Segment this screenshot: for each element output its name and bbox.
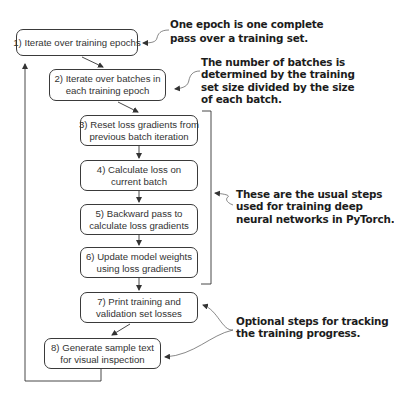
arrow-1-2 <box>82 57 103 67</box>
pointer-annotation-3 <box>215 193 233 205</box>
pointer-annotation-4a <box>203 305 233 330</box>
arrow-2-3 <box>118 102 138 112</box>
step-6-box: 6) Update model weights using loss gradi… <box>80 247 198 278</box>
annotation-optional-steps: Optional steps for tracking the training… <box>236 315 389 340</box>
step-5-box: 5) Backward pass to calculate loss gradi… <box>80 204 198 235</box>
step-2-box: 2) Iterate over batches in each training… <box>49 69 166 101</box>
annotation-usual-steps: These are the usual steps used for train… <box>236 188 394 225</box>
annotation-epoch: One epoch is one complete pass over a tr… <box>170 17 323 45</box>
step-1-box: 1) Iterate over training epochs <box>16 29 138 56</box>
step-3-box: 3) Reset loss gradients from previous ba… <box>80 115 198 146</box>
bracket-steps-3-6 <box>201 111 211 284</box>
step-7-box: 7) Print training and validation set los… <box>80 292 198 323</box>
pointer-annotation-2 <box>175 71 200 89</box>
step-4-box: 4) Calculate loss on current batch <box>80 160 198 191</box>
arrow-7-8 <box>112 324 130 335</box>
step-8-box: 8) Generate sample text for visual inspe… <box>44 338 161 369</box>
pointer-annotation-1 <box>143 30 169 43</box>
pointer-annotation-4b <box>165 330 233 357</box>
annotation-batches: The number of batches is determined by t… <box>201 56 355 106</box>
